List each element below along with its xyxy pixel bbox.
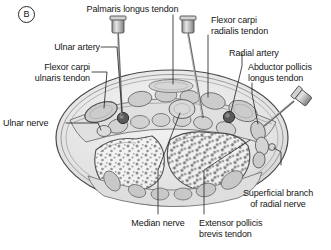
label-superficial-branch-radial-nerve: Superficial branch of radial nerve xyxy=(226,188,330,209)
anatomy-figure: B Palmaris longus tendon Flexor carpi ra… xyxy=(0,0,331,250)
panel-label: B xyxy=(18,6,35,23)
median-nerve-shape xyxy=(169,100,195,119)
label-flexor-carpi-radialis-tendon: Flexor carpi radialis tendon xyxy=(211,15,268,36)
superficial-radial-nerve-shape xyxy=(269,144,276,151)
label-ulnar-nerve: Ulnar nerve xyxy=(3,118,48,129)
label-ulnar-artery: Ulnar artery xyxy=(2,42,100,53)
label-palmaris-longus-tendon: Palmaris longus tendon xyxy=(55,4,210,15)
label-extensor-pollicis-brevis-tendon: Extensor pollicis brevis tendon xyxy=(199,218,262,239)
ulnar-nerve-shape xyxy=(97,126,111,137)
label-abductor-pollicis-longus-tendon: Abductor pollicis longus tendon xyxy=(248,62,312,83)
wrist-cross-section-illustration xyxy=(0,0,331,250)
label-median-nerve: Median nerve xyxy=(104,218,212,229)
label-radial-artery: Radial artery xyxy=(229,48,279,59)
label-flexor-carpi-ulnaris-tendon: Flexor carpi ulnaris tendon xyxy=(2,62,90,83)
